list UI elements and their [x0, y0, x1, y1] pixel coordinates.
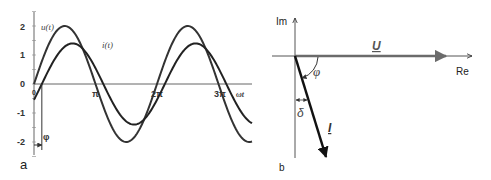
figure: 2 1 0 -1 -2 0 π 2π 3π ωt u(t) i(t) φ a I…: [0, 0, 491, 180]
y-tick-label: -2: [17, 137, 25, 147]
panel-b: Im Re U I φ δ b: [272, 16, 472, 173]
phi-label: φ: [313, 64, 320, 79]
delta-label: δ: [297, 106, 304, 120]
im-axis-label: Im: [276, 16, 287, 27]
re-axis-label: Re: [456, 66, 469, 77]
panel-a-label: a: [20, 157, 28, 172]
y-tick-label: 2: [20, 22, 25, 32]
y-tick-label: 0: [20, 79, 25, 89]
phase-label: φ: [43, 132, 50, 142]
y-tick-label: -1: [17, 108, 25, 118]
u-vector-label: U: [372, 39, 381, 53]
panel-b-label: b: [279, 162, 285, 173]
panel-a: 2 1 0 -1 -2 0 π 2π 3π ωt u(t) i(t) φ a: [17, 12, 252, 173]
x-axis-label: ωt: [236, 90, 245, 99]
u-curve-label: u(t): [41, 22, 54, 32]
i-vector-label: I: [328, 121, 332, 135]
i-curve-label: i(t): [102, 40, 113, 50]
y-tick-label: 1: [20, 50, 25, 60]
